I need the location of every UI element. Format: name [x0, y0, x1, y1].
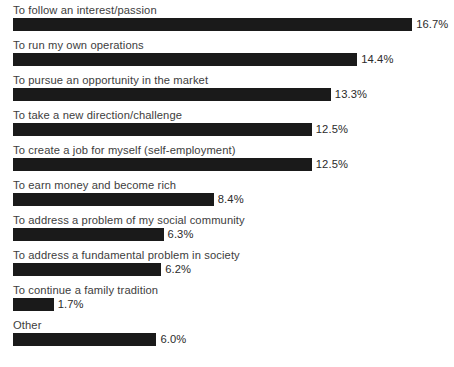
bar-fill [13, 88, 331, 101]
bar-track: 13.3% [13, 88, 441, 101]
bar-row: To pursue an opportunity in the market13… [0, 72, 454, 107]
bar-track: 12.5% [13, 158, 441, 171]
bar-track: 6.0% [13, 333, 441, 346]
bar-fill [13, 228, 164, 241]
bar-category-label: To address a fundamental problem in soci… [13, 248, 240, 262]
bar-row: To follow an interest/passion16.7% [0, 2, 454, 37]
bar-row: To run my own operations14.4% [0, 37, 454, 72]
bar-value-label: 6.0% [160, 333, 186, 346]
bar-category-label: To continue a family tradition [13, 283, 158, 297]
bar-value-label: 16.7% [416, 18, 448, 31]
bar-value-label: 6.2% [165, 263, 191, 276]
bar-category-label: Other [13, 318, 42, 332]
bar-value-label: 12.5% [316, 158, 348, 171]
bar-row: To address a problem of my social commun… [0, 212, 454, 247]
bar-fill [13, 158, 312, 171]
bar-fill [13, 333, 156, 346]
bar-track: 16.7% [13, 18, 441, 31]
bar-value-label: 14.4% [361, 53, 393, 66]
bar-row: To address a fundamental problem in soci… [0, 247, 454, 282]
bar-category-label: To earn money and become rich [13, 178, 176, 192]
bar-category-label: To take a new direction/challenge [13, 108, 182, 122]
bar-row: Other6.0% [0, 317, 454, 352]
bar-category-label: To pursue an opportunity in the market [13, 73, 208, 87]
bar-track: 14.4% [13, 53, 441, 66]
bar-value-label: 1.7% [58, 298, 84, 311]
bar-track: 6.2% [13, 263, 441, 276]
bar-fill [13, 263, 161, 276]
bar-value-label: 12.5% [316, 123, 348, 136]
bar-track: 6.3% [13, 228, 441, 241]
bar-category-label: To follow an interest/passion [13, 3, 157, 17]
bar-fill [13, 123, 312, 136]
bar-value-label: 6.3% [168, 228, 194, 241]
bar-category-label: To create a job for myself (self-employm… [13, 143, 236, 157]
bar-chart: To follow an interest/passion16.7%To run… [0, 0, 454, 367]
bar-value-label: 13.3% [335, 88, 367, 101]
bar-row: To create a job for myself (self-employm… [0, 142, 454, 177]
bar-track: 12.5% [13, 123, 441, 136]
bar-row: To continue a family tradition1.7% [0, 282, 454, 317]
bar-fill [13, 18, 412, 31]
bar-fill [13, 193, 214, 206]
bar-category-label: To run my own operations [13, 38, 144, 52]
bar-fill [13, 53, 357, 66]
bar-value-label: 8.4% [218, 193, 244, 206]
bar-category-label: To address a problem of my social commun… [13, 213, 245, 227]
bar-row: To earn money and become rich8.4% [0, 177, 454, 212]
bar-track: 1.7% [13, 298, 441, 311]
bar-fill [13, 298, 54, 311]
bar-track: 8.4% [13, 193, 441, 206]
bar-row: To take a new direction/challenge12.5% [0, 107, 454, 142]
